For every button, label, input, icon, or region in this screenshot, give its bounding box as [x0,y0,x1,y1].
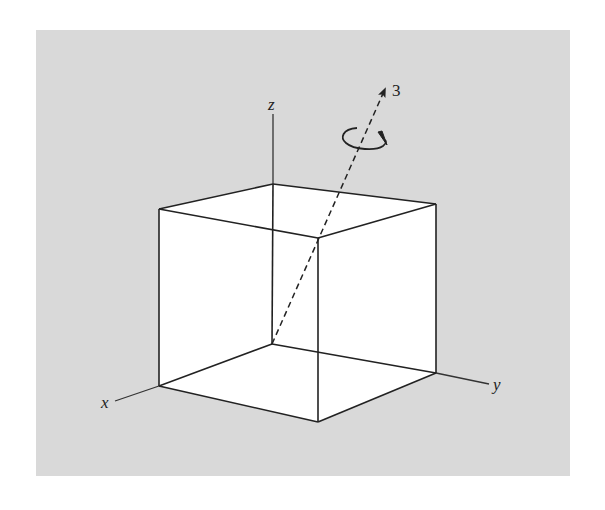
z-axis-label: z [267,95,275,114]
y-axis-line [436,373,489,384]
rotation-arrow-icon [343,128,387,149]
x-axis-line [115,386,159,401]
cube-diagram: z x y 3 [0,0,605,510]
y-axis-label: y [491,375,501,394]
rotation-axis-label: 3 [392,81,401,100]
x-axis-label: x [100,393,109,412]
cube-faces [159,184,436,422]
